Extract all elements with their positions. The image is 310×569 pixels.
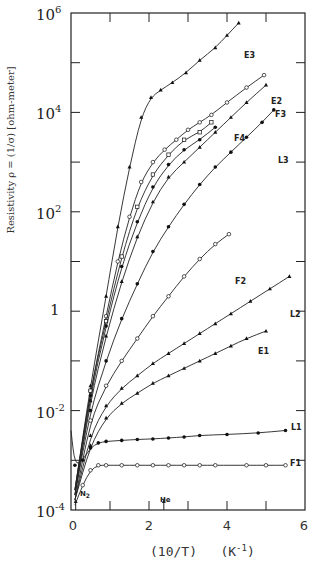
series-f3b	[75, 126, 217, 496]
series-e3	[75, 21, 241, 490]
xtick-2: 2	[145, 518, 153, 533]
x-axis-title: (10/T) (K-1)	[150, 543, 255, 559]
xtick-6: 6	[300, 518, 308, 533]
ytick-1e4: 104	[36, 104, 61, 122]
series-f2	[75, 232, 231, 500]
plot-frame	[71, 13, 305, 510]
series-f1	[75, 463, 287, 505]
resistivity-chart	[0, 0, 310, 569]
series-label-f4: F4	[234, 134, 245, 143]
ytick-1e-4: 10-4	[36, 502, 65, 520]
series-label-e3: E3	[244, 51, 255, 60]
series-e1	[75, 329, 268, 500]
series-label-l1: L1	[291, 423, 302, 432]
ytick-1e6: 106	[36, 5, 61, 23]
xtick-4: 4	[223, 518, 231, 533]
series-label-f3: F3	[275, 110, 286, 119]
series-label-l2: L2	[290, 310, 301, 319]
axes-box	[71, 13, 305, 510]
xtick-0: 0	[69, 518, 77, 533]
series-label-l3: L3	[278, 156, 289, 165]
ytick-1e-2: 10-2	[36, 403, 65, 421]
series-l1	[71, 429, 287, 467]
n2-annotation: N2	[80, 490, 90, 499]
y-axis-title: Resistivity ρ = (1/σ) [ohm-meter]	[5, 35, 16, 265]
ytick-1: 1	[50, 303, 60, 318]
series-label-f2: F2	[235, 277, 246, 286]
series-label-f1: F1	[290, 459, 301, 468]
series-f4	[75, 121, 213, 490]
ytick-1e2: 102	[36, 204, 61, 222]
series-layer	[71, 21, 291, 505]
series-label-e2: E2	[271, 97, 282, 106]
series-label-e1: E1	[258, 347, 269, 356]
he-annotation: He	[160, 496, 171, 504]
